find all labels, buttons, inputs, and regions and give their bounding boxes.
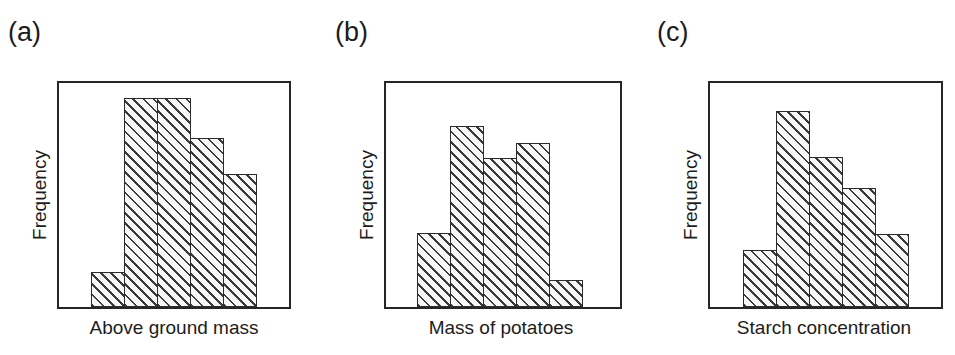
panel-a: (a) Frequency Above ground mass bbox=[0, 0, 320, 355]
bar-b-5 bbox=[549, 280, 583, 307]
panel-c-bars bbox=[743, 81, 910, 307]
panel-c: (c) Frequency Starch concentration bbox=[640, 0, 955, 355]
panel-c-y-axis-label: Frequency bbox=[681, 141, 701, 249]
panel-b-y-axis-label: Frequency bbox=[357, 141, 377, 249]
bar-b-4 bbox=[516, 143, 550, 307]
panel-c-x-axis-label: Starch concentration bbox=[693, 317, 955, 339]
panel-a-tag: (a) bbox=[8, 19, 41, 46]
bar-c-3 bbox=[809, 157, 843, 307]
bar-c-5 bbox=[875, 234, 909, 307]
bar-a-4 bbox=[190, 138, 224, 307]
bar-a-3 bbox=[157, 98, 191, 307]
panel-b-x-axis-label: Mass of potatoes bbox=[374, 317, 628, 339]
panel-b-tag: (b) bbox=[335, 19, 368, 46]
panel-a-y-axis-label: Frequency bbox=[30, 141, 50, 249]
panel-b: (b) Frequency Mass of potatoes bbox=[320, 0, 640, 355]
panel-b-bars bbox=[417, 81, 585, 307]
bar-b-3 bbox=[483, 158, 517, 307]
panel-a-bars bbox=[91, 81, 258, 307]
bar-c-1 bbox=[743, 250, 777, 307]
bar-b-2 bbox=[450, 126, 484, 307]
bar-a-5 bbox=[223, 174, 257, 307]
bar-c-4 bbox=[842, 188, 876, 307]
bar-c-2 bbox=[776, 111, 810, 307]
bar-a-2 bbox=[124, 98, 158, 307]
histogram-figure: (a) Frequency Above ground mass (b) Freq… bbox=[0, 0, 955, 355]
bar-b-1 bbox=[417, 233, 451, 307]
bar-a-1 bbox=[91, 272, 125, 307]
panel-a-x-axis-label: Above ground mass bbox=[47, 317, 301, 339]
panel-c-tag: (c) bbox=[657, 19, 688, 46]
